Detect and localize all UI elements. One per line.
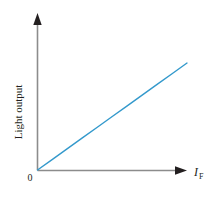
x-axis-label-subscript: F (199, 172, 204, 181)
chart-canvas: 0 Light output I F (0, 0, 218, 198)
chart-background (0, 0, 218, 198)
origin-label: 0 (28, 172, 33, 183)
chart-figure: 0 Light output I F (0, 0, 218, 198)
y-axis-label: Light output (12, 85, 24, 140)
